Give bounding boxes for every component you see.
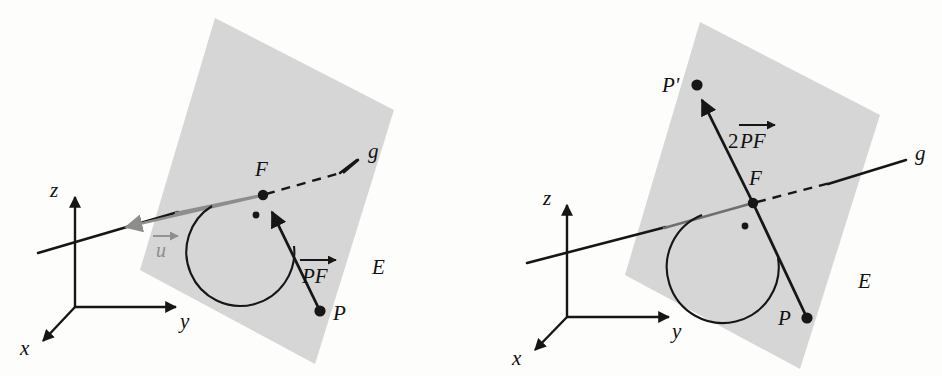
label-line-g-right: g: [915, 141, 926, 165]
axis-label-y-left: y: [178, 309, 190, 333]
right-panel-group: z y x F P P' E g 2 PF: [511, 22, 926, 370]
right-angle-dot-left: [253, 212, 260, 219]
label-F-right: F: [748, 166, 762, 190]
label-vector-2PF-prefix-right: 2: [728, 129, 739, 153]
axis-label-y-right: y: [670, 319, 682, 343]
label-vector-PF-text-left: PF: [301, 264, 328, 288]
point-P-prime-right: [691, 79, 702, 90]
label-P-left: P: [332, 301, 346, 325]
axis-label-x-right: x: [511, 346, 522, 370]
right-angle-dot-right: [742, 223, 749, 230]
point-F-right: [748, 198, 758, 208]
label-vector-2PF-text-right: PF: [739, 129, 766, 153]
axis-label-x-left: x: [19, 336, 30, 360]
label-vector-u-text-left: u: [156, 239, 166, 261]
axis-label-z-right: z: [542, 186, 551, 210]
label-line-g-left: g: [368, 139, 379, 163]
axis-x-left: [43, 307, 75, 341]
label-P-prime-right: P': [661, 73, 680, 97]
label-F-left: F: [254, 157, 268, 181]
geometry-figure-svg: z y x F P E g u PF: [0, 0, 942, 376]
point-P-right: [801, 312, 812, 323]
label-plane-E-left: E: [371, 255, 385, 279]
figure-page: z y x F P E g u PF: [0, 0, 942, 376]
axis-label-z-left: z: [49, 178, 58, 202]
axis-x-right: [535, 317, 567, 350]
point-P-left: [314, 305, 325, 316]
label-plane-E-right: E: [857, 269, 871, 293]
left-panel-group: z y x F P E g u PF: [19, 18, 394, 364]
point-F-left: [258, 190, 268, 200]
label-P-right: P: [777, 306, 791, 330]
plane-E-left: [140, 18, 394, 364]
